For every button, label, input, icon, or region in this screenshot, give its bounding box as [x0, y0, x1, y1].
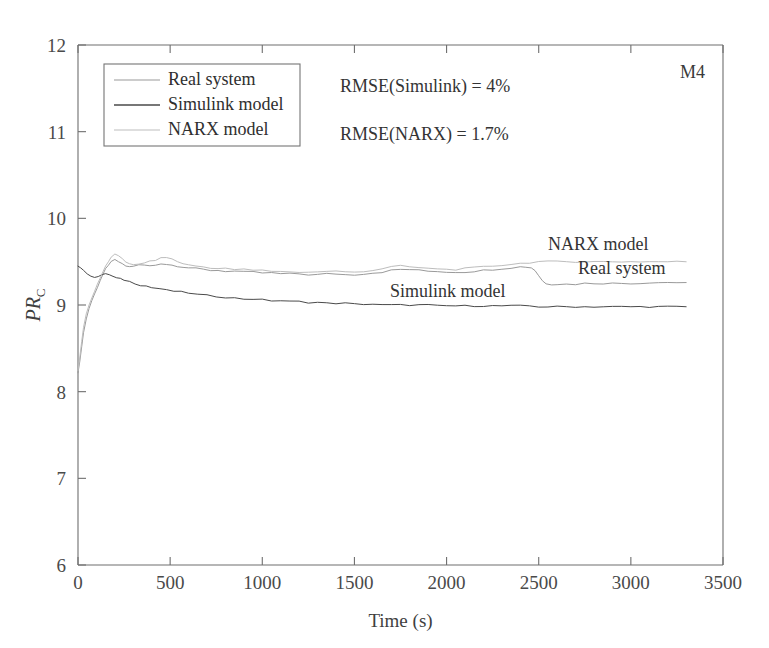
y-tick-label: 12	[47, 35, 66, 56]
corner-label-m4: M4	[680, 62, 705, 82]
legend[interactable]: Real systemSimulink modelNARX model	[104, 64, 300, 146]
annotation-group: RMSE(Simulink) = 4%RMSE(NARX) = 1.7%NARX…	[340, 62, 705, 301]
real-system-callout: Real system	[578, 258, 666, 278]
y-tick-label: 6	[57, 555, 67, 576]
y-tick-label: 8	[57, 382, 67, 403]
x-tick-label: 2500	[520, 572, 558, 593]
rmse-simulink: RMSE(Simulink) = 4%	[340, 76, 510, 97]
x-axis-title: Time (s)	[368, 610, 432, 632]
rmse-narx: RMSE(NARX) = 1.7%	[340, 124, 509, 145]
x-tick-label: 3500	[704, 572, 742, 593]
y-tick-label: 10	[47, 208, 66, 229]
x-tick-label: 0	[73, 572, 83, 593]
simulink-model-callout: Simulink model	[390, 281, 506, 301]
x-tick-label: 1000	[243, 572, 281, 593]
chart-figure: 05001000150020002500300035006789101112 R…	[0, 0, 769, 648]
x-tick-label: 3000	[612, 572, 650, 593]
legend-label-narx-model[interactable]: NARX model	[168, 119, 269, 139]
y-axis-title: PRC	[22, 288, 48, 322]
narx-model-callout: NARX model	[548, 234, 649, 254]
x-tick-label: 2000	[428, 572, 466, 593]
y-tick-label: 9	[57, 295, 67, 316]
x-tick-label: 500	[156, 572, 185, 593]
legend-label-real-system[interactable]: Real system	[168, 69, 256, 89]
y-tick-label: 11	[48, 122, 66, 143]
y-tick-label: 7	[57, 468, 67, 489]
legend-label-simulink-model[interactable]: Simulink model	[168, 94, 284, 114]
x-tick-label: 1500	[335, 572, 373, 593]
plot-canvas: 05001000150020002500300035006789101112 R…	[0, 0, 769, 648]
